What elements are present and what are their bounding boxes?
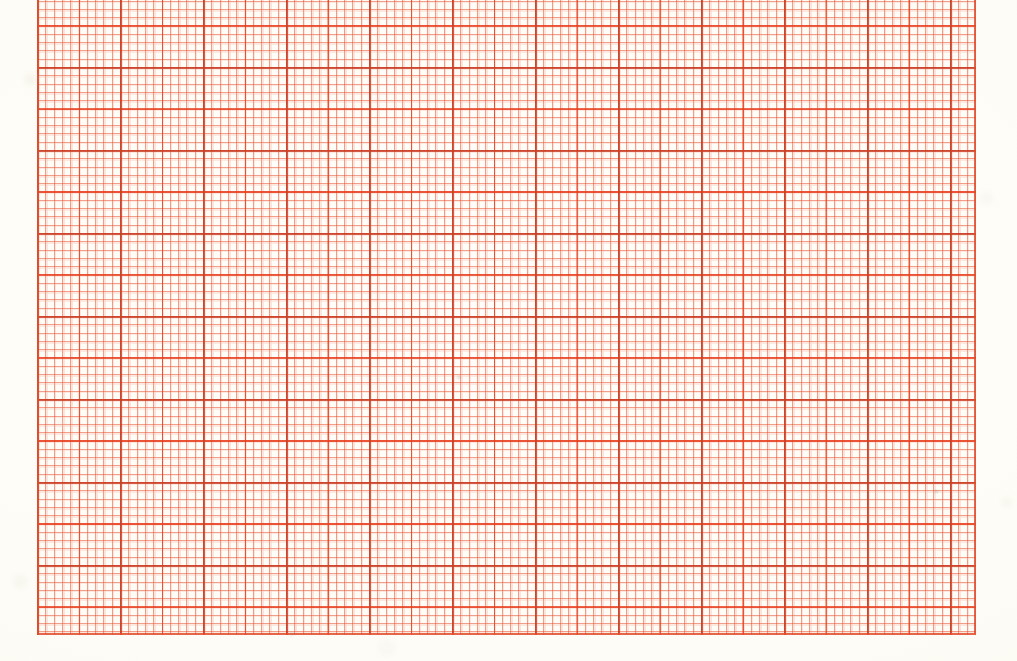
grid-border-rule xyxy=(37,0,976,635)
ink-bleed-overlay xyxy=(37,0,976,635)
graph-paper-scan: Graph paper sheet (scan) A scanned sheet… xyxy=(0,0,1017,661)
major-gridlines xyxy=(37,0,976,635)
mid-gridlines xyxy=(37,0,976,635)
printed-grid-area xyxy=(37,0,976,635)
minor-gridlines xyxy=(37,0,976,635)
